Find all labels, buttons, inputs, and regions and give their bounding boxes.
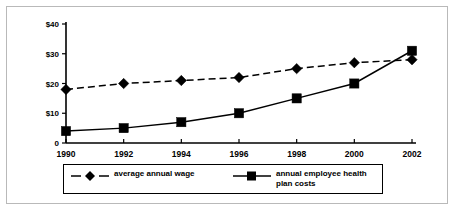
y-axis-tick-label: $30 bbox=[46, 50, 60, 59]
y-axis-tick-label: 0 bbox=[55, 139, 60, 148]
legend-label: average annual wage bbox=[114, 169, 194, 179]
data-point-square bbox=[407, 46, 416, 55]
y-axis-tick-label: $40 bbox=[46, 20, 60, 29]
data-point-square bbox=[350, 79, 359, 88]
y-axis-tick-label: $10 bbox=[46, 109, 60, 118]
square-marker bbox=[232, 170, 272, 182]
chart-screenshot: 0$10$20$30$40199019921994199619982000200… bbox=[0, 0, 456, 212]
series-line-square bbox=[66, 51, 412, 131]
data-point-diamond bbox=[291, 63, 301, 73]
data-point-diamond bbox=[234, 72, 244, 82]
x-axis-tick-label: 2000 bbox=[345, 149, 364, 159]
diamond-marker bbox=[70, 170, 110, 182]
x-axis-tick-label: 1990 bbox=[57, 149, 76, 159]
x-axis-tick-label: 1998 bbox=[287, 149, 306, 159]
data-point-diamond bbox=[176, 75, 186, 85]
y-axis-tick-label: $20 bbox=[46, 80, 60, 89]
x-axis-tick-label: 1994 bbox=[172, 149, 191, 159]
data-point-square bbox=[119, 124, 128, 133]
x-axis-tick-label: 1996 bbox=[230, 149, 249, 159]
data-point-square bbox=[234, 109, 243, 118]
data-point-diamond bbox=[118, 78, 128, 88]
legend-entry-average-annual-wage: average annual wage bbox=[70, 169, 194, 182]
data-point-square bbox=[292, 94, 301, 103]
x-axis-tick-label: 1992 bbox=[114, 149, 133, 159]
chart-legend: average annual wage annual employee heal… bbox=[63, 164, 383, 194]
data-point-square bbox=[177, 118, 186, 127]
data-point-diamond bbox=[407, 55, 417, 65]
x-axis-tick-label: 2002 bbox=[403, 149, 422, 159]
data-point-square bbox=[61, 127, 70, 136]
legend-entry-annual-employee-health-plan-costs: annual employee health plan costs bbox=[232, 169, 382, 189]
data-point-diamond bbox=[349, 57, 359, 67]
data-point-diamond bbox=[61, 84, 71, 94]
legend-label: annual employee health plan costs bbox=[276, 169, 382, 189]
